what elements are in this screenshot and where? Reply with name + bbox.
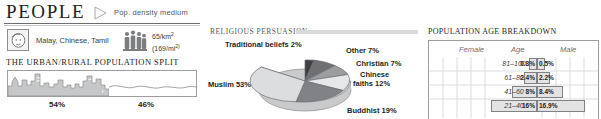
left-column: PEOPLE Pop. density medium Malay, Chines… xyxy=(4,0,200,119)
rural-percent-label: 46% xyxy=(138,100,154,109)
column-header-female: Female xyxy=(459,45,484,54)
value-male: 0.5% xyxy=(539,57,554,71)
urban-rural-graphic xyxy=(8,71,196,96)
religion-pie-chart: Traditional beliefs 2% Other 7% Christia… xyxy=(200,34,422,119)
pie-label-chinese-1: Chinese xyxy=(360,70,389,79)
age-heading: POPULATION AGE BREAKDOWN xyxy=(428,27,557,36)
value-male: 2.2% xyxy=(539,71,554,85)
pie-label-muslim: Muslim 53% xyxy=(208,80,251,89)
column-header-male: Male xyxy=(560,45,576,54)
pie-label-buddhist: Buddhist 19% xyxy=(347,106,397,115)
header-rule xyxy=(4,23,200,24)
age-section: POPULATION AGE BREAKDOWN Female Age Male xyxy=(424,0,601,119)
age-band-label: 81–100 xyxy=(490,57,538,71)
face-head-icon-glyph xyxy=(8,30,28,50)
face-head-icon xyxy=(7,29,29,51)
urban-rural-bar xyxy=(7,70,197,97)
urban-rural-labels: 54% 46% xyxy=(7,100,197,112)
ethnicity-label: Malay, Chinese, Tamil xyxy=(36,36,109,45)
age-band-label: 21–40 xyxy=(490,99,538,113)
age-pyramid-chart: Female Age Male 0.8% 81–100 0.5% 2.4% 61… xyxy=(428,40,599,119)
table-row: 16% 21–40 16.9% xyxy=(429,99,599,113)
urban-rural-heading: THE URBAN/RURAL POPULATION SPLIT xyxy=(6,57,179,67)
header-rule-secondary xyxy=(4,25,200,26)
page-title: PEOPLE xyxy=(6,2,85,22)
table-row: 2.4% 61–80 2.2% xyxy=(429,71,599,85)
demographic-facts-row: Malay, Chinese, Tamil 65/km2 (169/mi2) xyxy=(4,29,200,53)
pie-label-traditional: Traditional beliefs 2% xyxy=(225,40,302,49)
density-metric-sup: 2 xyxy=(171,31,174,37)
age-band-label: 61–80 xyxy=(490,71,538,85)
population-density-value: 65/km2 (169/mi2) xyxy=(152,30,180,54)
table-row: 0.8% 81–100 0.5% xyxy=(429,57,599,71)
table-row: 8% 41–60 8.4% xyxy=(429,85,599,99)
value-male: 16.9% xyxy=(539,99,557,113)
value-male: 8.4% xyxy=(539,85,554,99)
crowd-people-icon xyxy=(123,30,147,51)
density-metric: 65/km xyxy=(152,33,171,40)
density-imperial-sup: 2) xyxy=(175,43,179,49)
triangle-right-icon xyxy=(94,6,107,20)
density-imperial: (169/mi xyxy=(152,45,175,52)
religion-section: RELIGIOUS PERSUASION xyxy=(200,0,422,119)
pie-label-christian: Christian 7% xyxy=(356,59,401,68)
column-header-age: Age xyxy=(511,45,524,54)
pie-label-other: Other 7% xyxy=(346,46,379,55)
city-skyline-icon xyxy=(8,71,109,96)
age-pyramid-inner: Female Age Male 0.8% 81–100 0.5% 2.4% 61… xyxy=(429,41,598,119)
pie-label-chinese-2: faiths 12% xyxy=(353,79,390,88)
pop-density-badge: Pop. density medium xyxy=(114,8,188,17)
panel-header: PEOPLE Pop. density medium xyxy=(4,2,200,24)
age-band-label: 41–60 xyxy=(490,85,538,99)
people-infographic-panel: PEOPLE Pop. density medium Malay, Chines… xyxy=(0,0,601,119)
urban-percent-label: 54% xyxy=(49,100,65,109)
rural-hills-icon xyxy=(109,71,196,96)
